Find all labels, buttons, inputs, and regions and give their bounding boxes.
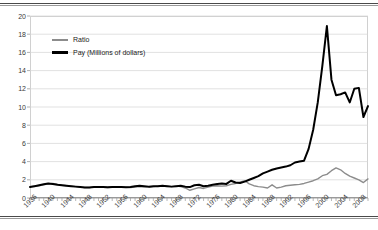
figure-bottom-rule-secondary <box>0 218 378 219</box>
y-axis-tick-label: 12 <box>2 85 26 92</box>
legend-label-ratio: Ratio <box>73 34 89 46</box>
figure-top-rule-secondary <box>0 5 378 6</box>
y-axis-tick-label: 20 <box>2 13 26 20</box>
figure-container: 02468101214161820 1936194019441948195219… <box>0 0 378 230</box>
legend-label-pay: Pay (Millions of dollars) <box>73 47 145 59</box>
figure-bottom-rule <box>0 216 378 217</box>
legend-item-ratio: Ratio <box>52 34 172 47</box>
y-axis-tick-label: 4 <box>2 158 26 165</box>
y-axis-tick-label: 2 <box>2 176 26 183</box>
y-axis-tick-label: 18 <box>2 31 26 38</box>
legend-swatch-ratio-icon <box>52 39 68 41</box>
y-axis-tick-label: 8 <box>2 122 26 129</box>
y-axis-tick-label: 6 <box>2 140 26 147</box>
y-axis-tick-label: 0 <box>2 195 26 202</box>
legend-swatch-pay-icon <box>52 51 68 54</box>
line-chart: 02468101214161820 1936194019441948195219… <box>0 8 378 214</box>
figure-top-rule <box>0 3 378 4</box>
y-axis-tick-label: 10 <box>2 104 26 111</box>
legend-item-pay: Pay (Millions of dollars) <box>52 47 172 60</box>
chart-legend: Ratio Pay (Millions of dollars) <box>52 34 172 60</box>
y-axis-tick-label: 14 <box>2 67 26 74</box>
y-axis-ticks <box>27 16 30 198</box>
y-axis-tick-label: 16 <box>2 49 26 56</box>
